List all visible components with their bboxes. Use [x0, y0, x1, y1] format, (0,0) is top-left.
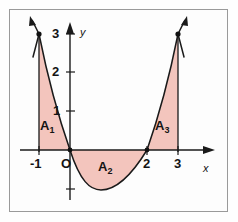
figure-root: 3 2 1 y -1 2 3 O x A1 A2 A3 — [0, 0, 238, 222]
y-tick-label-1: 1 — [53, 104, 60, 117]
region-label-a2: A2 — [98, 160, 112, 173]
y-axis-arrow-icon — [66, 22, 74, 34]
region-label-a2-sub: 2 — [107, 166, 112, 176]
x-tick-label-3: 3 — [174, 157, 181, 170]
x-tick-label-2: 2 — [143, 157, 150, 170]
region-label-a1: A1 — [40, 119, 54, 132]
region-label-a1-text: A — [40, 118, 49, 133]
point-marker-2-0 — [145, 148, 150, 153]
region-label-a1-sub: 1 — [49, 125, 54, 135]
curve-arrow-right-icon — [181, 16, 188, 26]
region-label-a2-text: A — [98, 159, 107, 174]
y-tick-label-3: 3 — [52, 27, 59, 40]
origin-label: O — [61, 157, 71, 170]
region-label-a3-text: A — [155, 118, 164, 133]
x-axis-arrow-icon — [203, 146, 215, 154]
point-marker-0-0 — [68, 148, 73, 153]
point-marker-3-3 — [175, 31, 180, 36]
plot-canvas — [0, 0, 238, 222]
y-axis-label: y — [80, 27, 86, 38]
y-tick-label-2: 2 — [52, 65, 59, 78]
x-tick-label--1: -1 — [30, 157, 42, 170]
region-label-a3-sub: 3 — [164, 125, 169, 135]
curve-arrow-left-icon — [29, 16, 36, 26]
region-label-a3: A3 — [155, 119, 169, 132]
point-marker--1-3 — [36, 31, 41, 36]
x-axis-label: x — [203, 163, 209, 174]
